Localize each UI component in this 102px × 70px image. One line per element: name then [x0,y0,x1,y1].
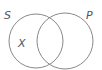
set-p-label: P [86,9,93,22]
venn-diagram: S P X [0,0,102,70]
set-p-circle [37,13,93,69]
region-x-label: X [17,37,26,50]
set-s-label: S [4,9,11,22]
